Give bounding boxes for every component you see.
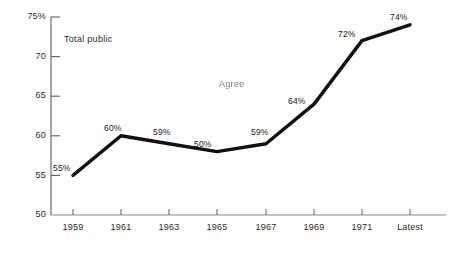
y-axis-ticks xyxy=(51,17,60,175)
x-tick-label-1961: 1961 xyxy=(97,222,145,232)
point-label-1959: 55% xyxy=(53,163,71,173)
x-tick-label-1959: 1959 xyxy=(49,222,97,232)
point-label-1963: 59% xyxy=(153,127,171,137)
y-tick-label-55: 55 xyxy=(14,170,46,180)
point-label-latest: 74% xyxy=(390,12,408,22)
x-tick-label-1963: 1963 xyxy=(145,222,193,232)
y-tick-label-50: 50 xyxy=(14,209,46,219)
point-label-1971: 72% xyxy=(338,29,356,39)
x-axis-ticks xyxy=(73,209,410,215)
x-tick-label-1971: 1971 xyxy=(338,222,386,232)
y-tick-label-75: 75% xyxy=(14,11,46,21)
data-line-total-public xyxy=(73,25,410,176)
point-label-1969: 64% xyxy=(288,96,306,106)
y-tick-label-70: 70 xyxy=(14,51,46,61)
y-tick-label-65: 65 xyxy=(14,90,46,100)
point-label-1967: 59% xyxy=(251,127,269,137)
x-tick-label-1969: 1969 xyxy=(290,222,338,232)
annotation-agree: Agree xyxy=(219,79,245,89)
series-label-total-public: Total public xyxy=(64,34,113,44)
x-tick-label-1965: 1965 xyxy=(193,222,241,232)
y-tick-label-60: 60 xyxy=(14,130,46,140)
point-label-1965: 50% xyxy=(194,139,212,149)
x-tick-label-latest: Latest xyxy=(386,222,434,232)
point-label-1961: 60% xyxy=(104,123,122,133)
x-tick-label-1967: 1967 xyxy=(242,222,290,232)
line-chart: 75% 70 65 60 55 50 1959 1961 1963 1965 1… xyxy=(0,0,452,253)
